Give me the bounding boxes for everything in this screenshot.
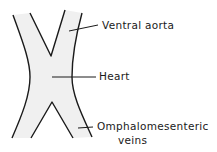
omphalomesenteric-label-line1: Omphalomesenteric [97,121,209,132]
heart-diagram: Ventral aorta Heart Omphalomesenteric ve… [0,0,217,152]
omphalomesenteric-label-line2: veins [118,135,147,146]
ventral-aorta-label: Ventral aorta [102,20,174,31]
heart-label: Heart [99,71,130,82]
